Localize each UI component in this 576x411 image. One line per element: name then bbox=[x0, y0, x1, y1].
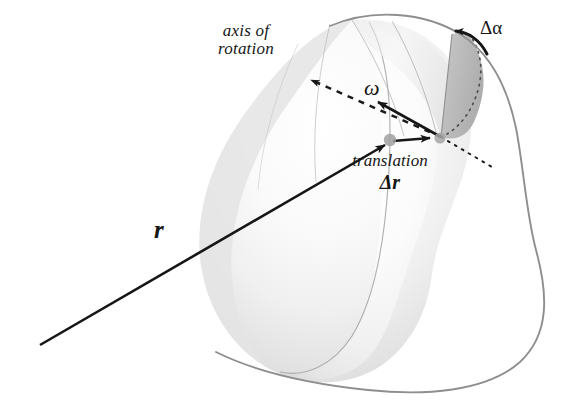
translation-label: translation bbox=[330, 152, 450, 170]
axis-of-rotation-label: axis of rotation bbox=[196, 22, 296, 59]
figure-canvas bbox=[0, 0, 576, 411]
rigid-body-solid bbox=[199, 19, 471, 382]
omega-label: ω bbox=[364, 76, 380, 100]
axis-label-line2: rotation bbox=[196, 40, 296, 58]
axis-label-line1: axis of bbox=[196, 22, 296, 40]
delta-r-label: Δr bbox=[330, 172, 450, 194]
pivot-dot-icon bbox=[434, 132, 445, 143]
delta-alpha-label: Δα bbox=[480, 18, 502, 39]
contact-dot-icon bbox=[384, 134, 396, 146]
rigid-body-motion-figure: axis of rotation ω translation Δr Δα r bbox=[0, 0, 576, 411]
position-vector-label: r bbox=[154, 216, 164, 243]
